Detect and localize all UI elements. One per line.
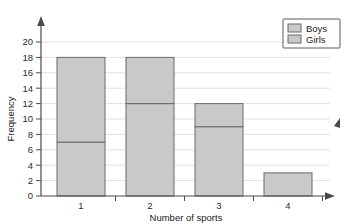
- bar-segment-boys-1: [57, 57, 105, 142]
- x-tick-label-4: 4: [285, 200, 290, 211]
- chart-legend[interactable]: Boys Girls: [283, 19, 340, 48]
- y-tick-label-20: 20: [22, 36, 33, 47]
- y-tick-label-14: 14: [22, 83, 33, 94]
- x-axis-title: Number of sports: [150, 212, 223, 223]
- y-tick-label-0: 0: [28, 190, 33, 201]
- legend-label-girls: Girls: [306, 34, 326, 45]
- y-tick-label-8: 8: [28, 129, 33, 140]
- y-tick-label-4: 4: [28, 160, 33, 171]
- x-tick-label-2: 2: [147, 200, 152, 211]
- x-tick-label-3: 3: [216, 200, 221, 211]
- legend-swatch-girls: [288, 35, 301, 43]
- y-tick-label-18: 18: [22, 52, 33, 63]
- y-tick-label-16: 16: [22, 67, 33, 78]
- y-tick-label-6: 6: [28, 144, 33, 155]
- y-tick-label-2: 2: [28, 175, 33, 186]
- legend-label-boys: Boys: [306, 23, 327, 34]
- chart-canvas: 0 2 4 6 8 10 12 14 16 18 20 1 2 3 4 Numb…: [0, 0, 348, 224]
- bar-segment-boys-3: [195, 104, 243, 127]
- bar-segment-girls-1: [57, 142, 105, 196]
- bar-segment-boys-2: [126, 57, 174, 103]
- x-tick-label-1: 1: [78, 200, 83, 211]
- legend-swatch-boys: [288, 24, 301, 32]
- y-tick-label-10: 10: [22, 113, 33, 124]
- stacked-bar-chart: 0 2 4 6 8 10 12 14 16 18 20 1 2 3 4 Numb…: [0, 0, 348, 224]
- bar-segment-girls-4: [264, 173, 312, 196]
- bar-segment-girls-2: [126, 104, 174, 196]
- y-axis-title: Frequency: [5, 96, 16, 141]
- y-tick-label-12: 12: [22, 98, 33, 109]
- bar-segment-girls-3: [195, 127, 243, 196]
